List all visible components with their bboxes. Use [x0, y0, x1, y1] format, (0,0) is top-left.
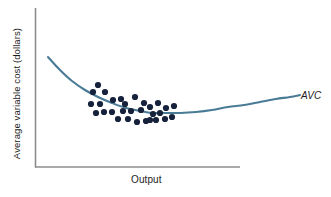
scatter-point	[102, 89, 108, 95]
scatter-point	[153, 117, 159, 123]
scatter-point	[162, 116, 168, 122]
scatter-point	[171, 103, 177, 109]
scatter-point	[88, 101, 94, 107]
scatter-point	[95, 82, 101, 88]
scatter-point	[97, 101, 103, 107]
scatter-point	[101, 109, 107, 115]
y-axis-label: Average variable cost (dollars)	[11, 14, 22, 174]
scatter-point	[163, 105, 169, 111]
scatter-point	[169, 114, 175, 120]
x-axis-label: Output	[131, 174, 162, 185]
scatter-point	[147, 117, 153, 123]
avc-curve-label: AVC	[301, 90, 321, 101]
scatter-point	[147, 104, 153, 110]
scatter-point	[150, 111, 156, 117]
scatter-point	[109, 109, 115, 115]
scatter-point	[90, 89, 96, 95]
scatter-point	[93, 110, 99, 116]
scatter-point	[134, 119, 140, 125]
scatter-point	[157, 110, 163, 116]
scatter-point	[120, 108, 126, 114]
scatter-point	[115, 116, 121, 122]
scatter-point	[110, 97, 116, 103]
avc-chart	[0, 0, 331, 197]
scatter-point	[155, 100, 161, 106]
scatter-point	[118, 96, 124, 102]
scatter-point	[141, 100, 147, 106]
scatter-point	[122, 101, 128, 107]
scatter-point	[128, 108, 134, 114]
scatter-point	[125, 116, 131, 122]
scatter-point	[138, 107, 144, 113]
scatter-point	[132, 94, 138, 100]
